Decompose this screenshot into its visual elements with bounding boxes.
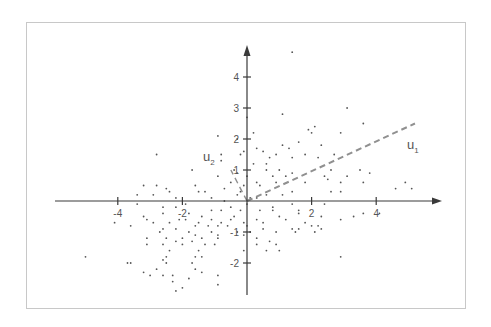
data-point (175, 206, 177, 208)
data-point (320, 144, 322, 146)
data-point (304, 222, 306, 224)
data-point (404, 182, 406, 184)
data-point (165, 237, 167, 239)
data-point (256, 182, 258, 184)
u1-vector (247, 124, 415, 202)
data-point (314, 126, 316, 128)
data-point (275, 182, 277, 184)
data-point (169, 191, 171, 193)
data-point (243, 234, 245, 236)
data-point (253, 132, 255, 134)
data-point (162, 244, 164, 246)
data-point (340, 132, 342, 134)
data-point (266, 194, 268, 196)
data-point (340, 182, 342, 184)
data-point (191, 169, 193, 171)
data-point (243, 250, 245, 252)
data-point (169, 250, 171, 252)
data-point (298, 141, 300, 143)
data-point (152, 222, 154, 224)
data-point (143, 271, 145, 273)
data-point (198, 222, 200, 224)
data-point (211, 197, 213, 199)
data-point (182, 244, 184, 246)
data-point (285, 175, 287, 177)
data-point (182, 237, 184, 239)
y-tick-label: 4 (233, 72, 239, 83)
data-point (169, 222, 171, 224)
data-point (272, 175, 274, 177)
data-point (320, 216, 322, 218)
data-point (175, 290, 177, 292)
data-point (369, 172, 371, 174)
data-point (162, 275, 164, 277)
data-point (152, 194, 154, 196)
data-point (165, 188, 167, 190)
data-point (311, 225, 313, 227)
data-point (291, 191, 293, 193)
data-point (217, 275, 219, 277)
data-point (207, 225, 209, 227)
data-point (291, 157, 293, 159)
data-point (175, 240, 177, 242)
data-point (172, 275, 174, 277)
data-point (256, 244, 258, 246)
u1-label: u1 (407, 137, 419, 155)
data-point (324, 175, 326, 177)
scatter-plot: -4-224 4321-1-2 u1 u2 (0, 0, 491, 327)
y-tick-label: 1 (233, 165, 239, 176)
data-point (165, 262, 167, 264)
x-tick-label: 2 (309, 208, 315, 219)
x-tick-label: 4 (373, 208, 379, 219)
data-point (288, 147, 290, 149)
data-point (224, 188, 226, 190)
data-point (198, 250, 200, 252)
data-point (346, 175, 348, 177)
data-point (198, 191, 200, 193)
data-point (340, 256, 342, 258)
data-point (262, 151, 264, 153)
data-point (340, 191, 342, 193)
data-point (165, 256, 167, 258)
data-point (130, 262, 132, 264)
data-point (162, 259, 164, 261)
data-point (275, 154, 277, 156)
data-point (204, 244, 206, 246)
data-point (136, 194, 138, 196)
data-point (211, 231, 213, 233)
data-point (285, 219, 287, 221)
data-point (188, 213, 190, 215)
data-point (162, 228, 164, 230)
data-point (146, 244, 148, 246)
data-point (308, 129, 310, 131)
data-point (278, 250, 280, 252)
data-point (149, 275, 151, 277)
data-point (282, 113, 284, 115)
data-point (333, 154, 335, 156)
data-point (262, 222, 264, 224)
data-point (243, 185, 245, 187)
data-point (220, 160, 222, 162)
data-point (194, 268, 196, 270)
data-point (395, 188, 397, 190)
data-point (156, 154, 158, 156)
data-point (172, 281, 174, 283)
y-tick-label: -2 (230, 258, 239, 269)
data-point (262, 228, 264, 230)
data-point (182, 287, 184, 289)
data-point (230, 182, 232, 184)
data-point (146, 219, 148, 221)
data-point (327, 178, 329, 180)
data-point (259, 185, 261, 187)
data-point (330, 191, 332, 193)
data-point (201, 271, 203, 273)
y-axis-arrow-icon (244, 45, 251, 56)
data-point (240, 154, 242, 156)
data-point (233, 216, 235, 218)
data-point (220, 154, 222, 156)
data-point (188, 231, 190, 233)
data-point (127, 262, 129, 264)
data-point (282, 194, 284, 196)
data-point (269, 240, 271, 242)
data-point (143, 185, 145, 187)
